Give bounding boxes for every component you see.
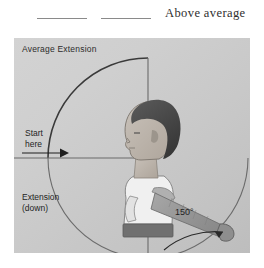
- start-here-arrow-icon: [22, 147, 70, 159]
- legend-header: Above average: [0, 0, 264, 34]
- answer-blank-line-1[interactable]: [37, 18, 87, 19]
- figure-waistband: [123, 224, 173, 237]
- answer-blank-line-2[interactable]: [101, 18, 151, 19]
- range-of-motion-diagram: Average Extension: [14, 38, 250, 253]
- label-extension-down: Extension (down): [22, 192, 59, 214]
- label-angle-150-degrees: 150°: [175, 207, 194, 217]
- legend-label-above-average: Above average: [165, 6, 246, 21]
- figure-person: [123, 100, 234, 241]
- diagram-graphics: [14, 38, 250, 253]
